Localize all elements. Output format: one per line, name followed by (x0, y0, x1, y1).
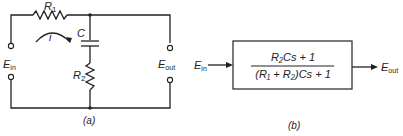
terminal-ein-bottom (8, 74, 13, 79)
output-arrowhead-icon (371, 64, 378, 70)
block-output-label: Eout (381, 61, 398, 74)
diagram-canvas: R1 i C R2 Ein Eout (a) Ein R₂Cs + 1 (R₁ … (0, 0, 403, 136)
terminal-eout-top (167, 45, 172, 50)
current-arrow (36, 33, 70, 42)
block-b: Ein R₂Cs + 1 (R₁ + R₂)Cs + 1 Eout (b) (194, 41, 398, 131)
r2-label: R2 (73, 69, 86, 83)
resistor-r1 (33, 11, 67, 19)
tf-denominator: (R₁ + R₂)Cs + 1 (255, 68, 331, 80)
tf-numerator: R₂Cs + 1 (271, 51, 315, 63)
circuit-a: R1 i C R2 Ein Eout (a) (3, 0, 175, 126)
caption-a: (a) (83, 115, 95, 126)
r1-label: R1 (44, 0, 57, 14)
terminal-eout-bottom (167, 77, 172, 82)
transfer-function-block (233, 41, 352, 89)
resistor-r2 (86, 63, 94, 90)
capacitor-label: C (77, 27, 85, 39)
wire-left-top (11, 15, 33, 45)
junction-bottom (88, 106, 92, 110)
terminal-ein-top (8, 43, 13, 48)
input-arrowhead-icon (226, 62, 233, 68)
caption-b: (b) (288, 120, 300, 131)
block-input-label: Ein (194, 59, 207, 72)
eout-label: Eout (158, 58, 175, 71)
ein-label: Ein (3, 58, 16, 71)
